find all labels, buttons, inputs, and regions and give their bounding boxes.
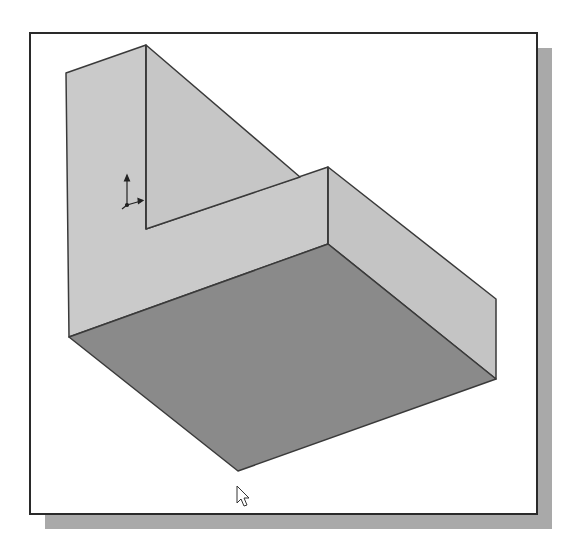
model-scene[interactable]: [0, 0, 565, 555]
mouse-pointer-icon: [237, 486, 249, 506]
